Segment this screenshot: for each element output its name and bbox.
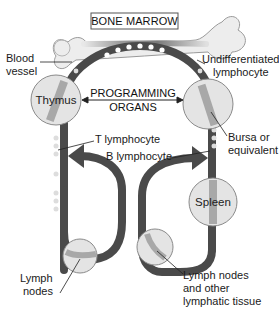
blood-vessel-label-line2: vessel (6, 65, 37, 77)
organs-label: ORGANS (109, 101, 157, 113)
thymus-organ: Thymus (31, 75, 81, 125)
spleen-label: Spleen (195, 196, 231, 208)
lymphocyte-cell (74, 69, 79, 74)
lymph-node-right-organ (137, 229, 173, 265)
lymph-node-left-organ (63, 239, 97, 273)
b-lymphocytes (212, 128, 217, 149)
b-lymphocyte-label: B lymphocyte (106, 150, 172, 162)
thymus-label: Thymus (36, 94, 77, 106)
bursa-label-line2: equivalent (228, 144, 278, 156)
bursa-label-line1: Bursa or (228, 131, 270, 143)
lymph-nodes-label-line2: nodes (23, 285, 53, 297)
lymphocyte-development-diagram: BONE MARROW (0, 0, 279, 312)
undiff-label-line1: Undifferentiated (202, 53, 279, 65)
programming-label: PROGRAMMING (90, 87, 176, 99)
lymph-other-label-line2: and other (183, 282, 230, 294)
t-lymphocyte-label: T lymphocyte (95, 133, 160, 145)
bone-marrow-label-box: BONE MARROW (91, 13, 178, 29)
blood-vessel-label-line1: Blood (6, 52, 34, 64)
bursa-organ (183, 79, 233, 129)
bone-marrow-label: BONE MARROW (91, 15, 178, 27)
lymph-other-label-line3: lymphatic tissue (183, 295, 261, 307)
spleen-organ: Spleen (189, 178, 237, 226)
lymph-other-label-line1: Lymph nodes (183, 269, 249, 281)
lymphocyte-cell (198, 69, 203, 74)
undiff-label-line2: lymphocyte (213, 66, 269, 78)
arrow-right-icon (192, 146, 208, 170)
t-lymphocytes (54, 136, 59, 212)
lymph-nodes-label-line1: Lymph (20, 272, 53, 284)
arrow-left-icon (68, 144, 84, 168)
